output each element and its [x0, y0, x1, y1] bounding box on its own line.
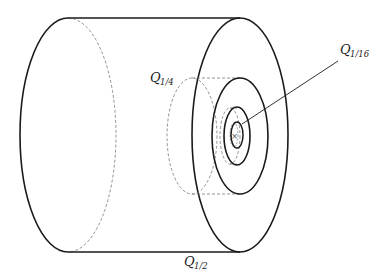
- svg-text:1/2: 1/2: [194, 261, 208, 271]
- leader-line: [242, 61, 338, 124]
- cylinder-q-quarter: [167, 78, 268, 194]
- svg-text:1/4: 1/4: [160, 77, 174, 87]
- cylinder-q-half: [20, 18, 288, 252]
- nested-cylinders-diagram: × Q 1/16 Q 1/4 Q 1/2: [0, 0, 384, 280]
- svg-text:1/16: 1/16: [350, 49, 370, 59]
- label-q-sixteenth: Q 1/16: [340, 42, 370, 59]
- center-marker-icon: ×: [231, 132, 238, 141]
- label-q-quarter: Q 1/4: [150, 70, 174, 87]
- label-q-half: Q 1/2: [184, 254, 208, 271]
